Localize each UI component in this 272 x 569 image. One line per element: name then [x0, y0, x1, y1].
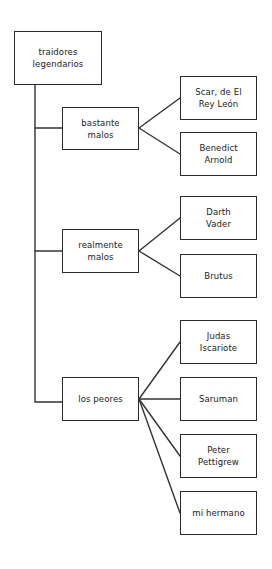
connector-realmente-brutus	[139, 251, 180, 276]
leaf-label: mi hermano	[192, 507, 244, 519]
leaf-node-darth-vader: Darth Vader	[180, 196, 257, 240]
connector-bastante-benedict	[139, 128, 180, 154]
connector-peores-pettigrew	[139, 399, 180, 456]
leaf-node-peter-pettigrew: Peter Pettigrew	[180, 434, 257, 478]
connector-peores-judas	[139, 342, 180, 399]
leaf-node-mi-hermano: mi hermano	[180, 491, 257, 535]
leaf-node-benedict-arnold: Benedict Arnold	[180, 132, 257, 176]
leaf-node-judas-iscariote: Judas Iscariote	[180, 320, 257, 364]
leaf-node-saruman: Saruman	[180, 377, 257, 421]
traitors-tree-diagram: traidores legendarios bastante malos Sca…	[0, 0, 272, 569]
connector-peores-hermano	[139, 399, 180, 513]
connector-bastante-scar	[139, 98, 180, 128]
leaf-node-scar: Scar, de El Rey León	[180, 76, 257, 120]
leaf-label: Darth Vader	[206, 206, 231, 230]
category-label: los peores	[78, 393, 122, 405]
leaf-label: Benedict Arnold	[199, 142, 237, 166]
leaf-label: Peter Pettigrew	[198, 444, 239, 468]
category-label: bastante malos	[81, 117, 119, 141]
root-node: traidores legendarios	[14, 31, 102, 85]
leaf-label: Scar, de El Rey León	[195, 86, 241, 110]
leaf-label: Brutus	[204, 270, 232, 282]
category-label: realmente malos	[78, 239, 122, 263]
leaf-label: Saruman	[199, 393, 238, 405]
leaf-node-brutus: Brutus	[180, 254, 257, 298]
category-node-realmente-malos: realmente malos	[62, 229, 139, 273]
root-label: traidores legendarios	[33, 46, 84, 70]
trunk-line	[35, 85, 62, 402]
category-node-los-peores: los peores	[62, 377, 139, 421]
category-node-bastante-malos: bastante malos	[62, 107, 139, 150]
connector-realmente-vader	[139, 218, 180, 251]
leaf-label: Judas Iscariote	[200, 330, 237, 354]
